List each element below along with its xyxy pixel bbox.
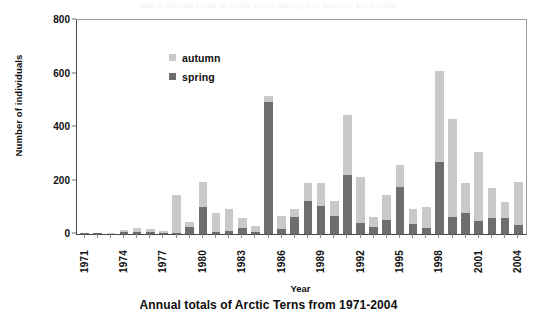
y-tick-label-800: 800 [36, 14, 70, 25]
x-label-cell [327, 239, 340, 283]
x-label-cell [169, 239, 182, 283]
x-tick-mark [432, 234, 445, 238]
x-tick-mark [471, 234, 484, 238]
x-tick-label: 2001 [472, 250, 483, 273]
x-label-cell: 1974 [116, 239, 129, 283]
bar-column [78, 20, 91, 234]
legend-swatch-autumn-icon [169, 54, 176, 61]
y-tick-label-200: 200 [36, 174, 70, 185]
x-tick-mark [169, 234, 182, 238]
bar-column [131, 20, 144, 234]
stacked-bar [172, 195, 181, 234]
x-tick-mark [130, 234, 143, 238]
bar-column [91, 20, 104, 234]
bar-column [380, 20, 393, 234]
x-label-cell: 1995 [392, 239, 405, 283]
x-label-cell [208, 239, 221, 283]
x-tick-mark [248, 234, 261, 238]
x-axis-tick-marks [76, 234, 525, 238]
x-tick-label: 1974 [117, 250, 128, 273]
stacked-bar [212, 213, 221, 234]
bar-segment-spring [199, 207, 208, 234]
stacked-bar [435, 71, 444, 234]
stacked-bar [317, 183, 326, 234]
legend-item-autumn: autumn [169, 50, 265, 65]
bar-column [341, 20, 354, 234]
bar-segment-autumn [199, 182, 208, 207]
stacked-bar [225, 209, 234, 234]
x-label-cell: 1998 [432, 239, 445, 283]
x-tick-mark [235, 234, 248, 238]
bar-column [104, 20, 117, 234]
x-tick-mark [261, 234, 274, 238]
y-tick-label-400: 400 [36, 121, 70, 132]
x-label-cell [458, 239, 471, 283]
x-tick-mark [182, 234, 195, 238]
bar-segment-autumn [488, 188, 497, 218]
x-tick-mark [90, 234, 103, 238]
x-tick-mark [222, 234, 235, 238]
bar-segment-spring [317, 206, 326, 234]
x-tick-mark [156, 234, 169, 238]
bar-segment-autumn [277, 216, 286, 228]
x-tick-mark [366, 234, 379, 238]
stacked-bar [422, 207, 431, 234]
x-label-cell: 2001 [471, 239, 484, 283]
x-tick-mark [77, 234, 90, 238]
x-label-cell [300, 239, 313, 283]
bar-segment-spring [488, 218, 497, 234]
x-label-cell [287, 239, 300, 283]
bar-column [275, 20, 288, 234]
bar-segment-autumn [290, 209, 299, 216]
x-label-cell [248, 239, 261, 283]
x-tick-label: 2004 [512, 250, 523, 273]
x-tick-mark [287, 234, 300, 238]
bar-segment-autumn [343, 115, 352, 175]
x-tick-mark [419, 234, 432, 238]
bar-segment-autumn [396, 165, 405, 188]
bar-segment-autumn [225, 209, 234, 231]
bar-segment-autumn [435, 71, 444, 162]
x-tick-label: 1971 [78, 250, 89, 273]
x-tick-label: 1986 [275, 250, 286, 273]
figure-caption: Annual totals of Arctic Terns from 1971-… [0, 298, 537, 312]
bar-column [144, 20, 157, 234]
bar-column [512, 20, 525, 234]
x-tick-mark [274, 234, 287, 238]
plot-container: Number of individuals 0 200 400 600 800 … [0, 0, 537, 250]
x-label-cell: 1989 [314, 239, 327, 283]
x-label-cell [130, 239, 143, 283]
bar-column [485, 20, 498, 234]
bar-segment-spring [461, 213, 470, 234]
x-label-cell [366, 239, 379, 283]
bar-segment-spring [448, 217, 457, 234]
legend: autumn spring [169, 50, 265, 88]
bar-column [472, 20, 485, 234]
bar-segment-autumn [514, 182, 523, 226]
bar-column [459, 20, 472, 234]
x-label-cell [484, 239, 497, 283]
bar-segment-spring [343, 175, 352, 234]
x-label-cell: 1971 [77, 239, 90, 283]
x-tick-mark [445, 234, 458, 238]
bar-column [446, 20, 459, 234]
bar-column [301, 20, 314, 234]
x-tick-mark [379, 234, 392, 238]
bar-segment-spring [501, 218, 510, 234]
bar-segment-spring [304, 201, 313, 234]
x-tick-mark [103, 234, 116, 238]
bar-segment-spring [356, 223, 365, 234]
x-tick-mark [484, 234, 497, 238]
x-tick-label: 1998 [433, 250, 444, 273]
bar-segment-autumn [448, 119, 457, 217]
y-axis-title: Number of individuals [13, 21, 24, 191]
bar-segment-autumn [356, 177, 365, 223]
x-label-cell [340, 239, 353, 283]
bar-column [393, 20, 406, 234]
bar-segment-spring [382, 220, 391, 234]
stacked-bar [185, 222, 194, 234]
stacked-bar [199, 182, 208, 234]
x-tick-label: 1989 [315, 250, 326, 273]
x-tick-mark [392, 234, 405, 238]
bar-segment-autumn [382, 195, 391, 220]
